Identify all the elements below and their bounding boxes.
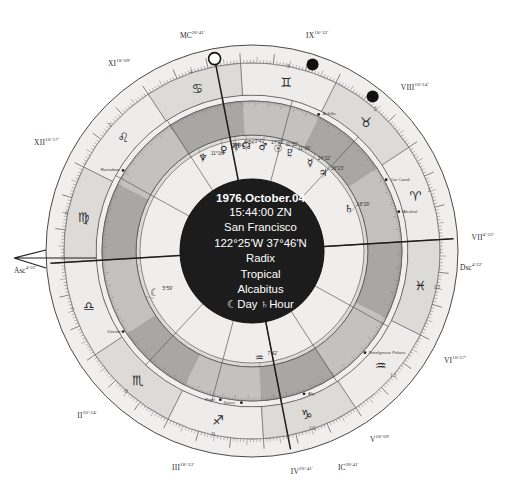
fixed-star-marker-8 xyxy=(303,392,306,395)
axis-label-Asc: Asc4°22' xyxy=(14,265,36,274)
house-cusp-label-IX: IX18°33' xyxy=(306,30,328,39)
fixed-star-label: Sirius xyxy=(224,400,235,405)
zodiac-glyph-Capricorn: ♑ xyxy=(301,407,313,422)
house-degree: 20°41' xyxy=(299,466,313,471)
zodiac-glyph-Virgo: ♍ xyxy=(78,210,90,225)
planet-glyph-neptune[interactable]: ♆ xyxy=(199,152,208,163)
house-degree: 18°09' xyxy=(116,58,130,63)
fixed-star-label: Alcohol xyxy=(403,209,417,214)
axis-label-MC: MC20°41' xyxy=(180,30,205,39)
house-roman: VI xyxy=(444,355,452,364)
planet-degree-uranus: 6°54' xyxy=(244,140,255,145)
house-number-7: 7 xyxy=(71,306,75,314)
house-degree: 10°57' xyxy=(45,137,59,142)
house-degree: 18°33' xyxy=(180,462,194,467)
planet-degree-moon: 5°59' xyxy=(162,286,173,291)
planet-marker-1[interactable] xyxy=(307,59,319,71)
planet-glyph-sun[interactable]: ☉ xyxy=(273,143,282,154)
fixed-star-label: Betelgeuse Polaris xyxy=(369,350,406,355)
house-number-5: 5 xyxy=(108,121,112,129)
planet-glyph-pluto[interactable]: ♇ xyxy=(286,147,295,158)
axis-name: IC xyxy=(338,463,346,472)
fixed-star-marker-6 xyxy=(240,401,243,404)
house-degree: 10°24' xyxy=(83,410,97,415)
house-degree: 10°24' xyxy=(414,82,428,87)
planet-degree-mercury: 24°32' xyxy=(318,156,331,161)
house-number-9: 9 xyxy=(212,430,216,438)
house-cusp-label-XI: XI18°09' xyxy=(108,58,130,67)
zodiac-glyph-Taurus: ♉ xyxy=(360,115,372,130)
planet-degree-jupiter: 16°23' xyxy=(331,166,344,171)
house-number-1: 1 xyxy=(427,186,431,194)
house-cusp-label-VI: VI10°57' xyxy=(444,355,466,364)
planet-marker-2[interactable] xyxy=(367,91,379,103)
axis-name: MC xyxy=(180,31,192,40)
house-number-6: 6 xyxy=(65,209,69,217)
zodiac-glyph-Scorpio: ♏ xyxy=(132,373,144,388)
house-number-8: 8 xyxy=(124,387,128,395)
axis-degree: 20°41' xyxy=(192,30,205,35)
planet-degree-neptune: 11°16' xyxy=(211,151,224,156)
zodiac-glyph-Gemini: ♊ xyxy=(280,75,292,90)
house-number-10: 10 xyxy=(309,424,316,432)
house-roman: VIII xyxy=(401,83,415,92)
house-cusp-label-VIII: VIII10°24' xyxy=(401,82,429,91)
house-cusp-label-V: V18°09' xyxy=(370,434,390,443)
planet-glyph-saturn[interactable]: ♄ xyxy=(344,203,353,214)
house-degree: 10°57' xyxy=(452,355,466,360)
fixed-star-label: Rigel xyxy=(205,397,215,402)
axis-label-IC: IC20°41' xyxy=(338,462,358,471)
house-number-3: 3 xyxy=(286,62,290,70)
house-cusp-label-VII: VII4°22' xyxy=(472,232,494,241)
zodiac-glyph-Sagittarius: ♐ xyxy=(212,413,224,428)
house-roman: VII xyxy=(472,233,483,242)
fixed-star-marker-2 xyxy=(385,178,388,181)
astrology-chart-wheel: ♈♉♊♋♌♍♎♏♐♑♒♓☊3°41'♅6°54'♂17°22'♀17°44'♇1… xyxy=(0,0,521,503)
fixed-star-marker-7 xyxy=(219,398,222,401)
fixed-star-marker-1 xyxy=(317,113,320,116)
fixed-star-marker-5 xyxy=(122,330,125,333)
planet-glyph-chiron[interactable]: ♒ xyxy=(255,352,264,363)
axis-name: Asc xyxy=(14,266,26,275)
planet-glyph-jupiter[interactable]: ♃ xyxy=(318,167,327,178)
house-cusp-label-III: III18°33' xyxy=(172,462,194,471)
house-roman: IV xyxy=(291,466,299,475)
zodiac-glyph-Aries: ♈ xyxy=(409,189,421,204)
fixed-star-label: Achilla xyxy=(323,111,336,116)
house-degree: 18°09' xyxy=(376,434,390,439)
house-number-12: 12 xyxy=(433,283,440,291)
center-disc xyxy=(180,179,324,323)
planet-degree-sun: 11°52' xyxy=(286,142,299,147)
house-degree: 4°22' xyxy=(483,232,494,237)
house-degree: 18°33' xyxy=(314,30,328,35)
planet-degree-saturn: 18°29' xyxy=(357,202,370,207)
house-roman: III xyxy=(172,463,180,472)
mc-marker[interactable] xyxy=(209,53,221,65)
zodiac-glyph-Leo: ♌ xyxy=(117,130,129,145)
fixed-star-marker-0 xyxy=(122,169,125,172)
house-cusp-label-XII: XII10°57' xyxy=(34,137,59,146)
house-roman: XII xyxy=(34,138,45,147)
fixed-star-label: Rastaban xyxy=(101,167,120,172)
house-number-4: 4 xyxy=(189,68,193,76)
planet-degree-chiron: 7°42' xyxy=(267,351,278,356)
fixed-star-label: Deneb xyxy=(108,329,121,334)
planet-glyph-moon[interactable]: ☾ xyxy=(150,287,159,298)
axis-degree: 20°41' xyxy=(346,462,359,467)
axis-label-Dsc: Dsc4°22' xyxy=(460,262,482,271)
planet-degree-pluto: 11°36' xyxy=(298,146,311,151)
fixed-star-marker-4 xyxy=(364,351,367,354)
zodiac-glyph-Pisces: ♓ xyxy=(415,278,427,293)
fixed-star-marker-3 xyxy=(397,210,400,213)
axis-degree: 4°22' xyxy=(26,265,36,270)
axis-degree: 4°22' xyxy=(472,262,482,267)
house-cusp-label-IV: IV20°41' xyxy=(291,466,313,475)
fixed-star-label: Alg xyxy=(308,391,314,396)
house-number-11: 11 xyxy=(390,371,397,379)
zodiac-glyph-Libra: ♎ xyxy=(83,299,95,314)
axis-name: Dsc xyxy=(460,263,472,272)
zodiac-glyph-Aquarius: ♒ xyxy=(375,358,387,373)
house-cusp-label-II: II10°24' xyxy=(77,410,97,419)
zodiac-glyph-Cancer: ♋ xyxy=(192,81,204,96)
house-number-2: 2 xyxy=(374,105,378,113)
